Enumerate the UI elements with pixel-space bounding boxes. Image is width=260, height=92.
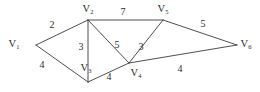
vertex-label-v1: V1 — [9, 38, 20, 50]
edge-weights-group: 243574345 — [40, 6, 206, 82]
vertex-label-v2: V2 — [83, 3, 94, 15]
graph-canvas: 243574345 V1V2V3V4V5V6 — [0, 0, 260, 92]
graph-edge-v4-v6 — [129, 45, 237, 63]
vertex-label-v5: V5 — [158, 3, 169, 15]
vertex-label-v6: V6 — [241, 38, 253, 50]
edge-weight-v2-v5: 7 — [121, 6, 126, 17]
vertex-labels-group: V1V2V3V4V5V6 — [9, 3, 253, 79]
vertex-label-v4: V4 — [131, 67, 143, 79]
edge-weight-v1-v3: 4 — [40, 59, 45, 70]
edge-weight-v4-v5: 3 — [139, 41, 144, 52]
graph-edge-v2-v4 — [88, 20, 129, 63]
edge-weight-v4-v6: 4 — [178, 63, 183, 74]
vertex-label-v3: V3 — [81, 62, 92, 74]
edge-weight-v2-v3: 3 — [79, 41, 84, 52]
graph-edge-v4-v5 — [129, 20, 163, 63]
edge-weight-v1-v2: 2 — [50, 19, 55, 30]
graph-figure: 243574345 V1V2V3V4V5V6 — [0, 0, 260, 92]
edge-weight-v5-v6: 5 — [201, 18, 206, 29]
edge-weight-v2-v4: 5 — [115, 39, 120, 50]
edge-weight-v3-v4: 4 — [107, 71, 112, 82]
